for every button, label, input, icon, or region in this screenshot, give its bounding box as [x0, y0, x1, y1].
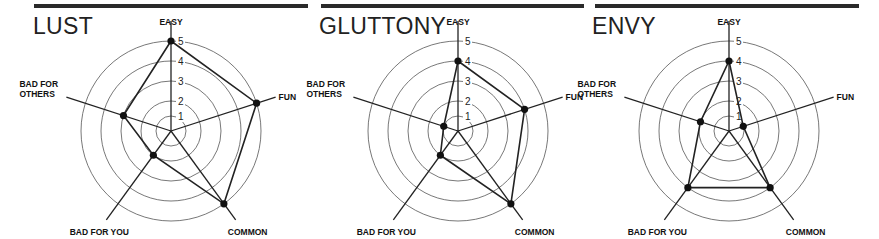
tick-label-2: 2 [178, 96, 184, 107]
radar-chart-envy: 12345EASYFUNBAD FOROTHERSBAD FOR YOUCOMM… [577, 17, 854, 237]
data-point-bad-for-you [150, 152, 157, 159]
radar-chart-gluttony: 12345EASYFUNBAD FOROTHERSBAD FOR YOUCOMM… [306, 17, 583, 237]
data-point-bad-for-others [697, 118, 704, 125]
axis-label-common: COMMON [515, 227, 555, 237]
axis-label-bad-for-others-line2: OTHERS [577, 89, 613, 99]
axis-bad-for-others [66, 97, 171, 131]
axis-common [729, 131, 794, 220]
axis-label-bad-for-you: BAD FOR YOU [357, 227, 416, 237]
data-point-fun [253, 100, 260, 107]
tick-label-1: 1 [465, 111, 471, 122]
tick-label-5: 5 [736, 36, 742, 47]
tick-label-5: 5 [465, 36, 471, 47]
data-point-fun [521, 106, 528, 113]
axis-bad-for-you [106, 131, 171, 220]
data-point-bad-for-you [684, 184, 691, 191]
axis-label-bad-for-others-line2: OTHERS [306, 89, 342, 99]
axis-label-bad-for-others-line1: BAD FOR [19, 79, 58, 89]
axis-label-bad-for-others-line1: BAD FOR [306, 79, 345, 89]
axis-label-bad-for-you: BAD FOR YOU [70, 227, 129, 237]
axis-label-common: COMMON [228, 227, 268, 237]
tick-label-4: 4 [465, 56, 471, 67]
tick-label-4: 4 [178, 56, 184, 67]
axis-label-fun: FUN [279, 92, 296, 102]
axis-label-bad-for-you: BAD FOR YOU [628, 227, 687, 237]
data-polygon [440, 61, 524, 204]
data-point-easy [454, 57, 461, 64]
radar-chart-lust: 12345EASYFUNBAD FOROTHERSBAD FOR YOUCOMM… [19, 17, 296, 237]
axis-label-common: COMMON [786, 227, 826, 237]
data-point-bad-for-others [440, 123, 447, 130]
data-point-bad-for-others [120, 112, 127, 119]
tick-label-3: 3 [736, 76, 742, 87]
tick-label-3: 3 [465, 76, 471, 87]
data-point-common [220, 200, 227, 207]
axis-label-bad-for-others-line2: OTHERS [19, 89, 55, 99]
axis-label-easy: EASY [159, 17, 182, 27]
data-point-easy [725, 57, 732, 64]
data-point-common [507, 200, 514, 207]
axis-label-fun: FUN [837, 92, 854, 102]
axis-fun [458, 97, 563, 131]
axis-label-easy: EASY [446, 17, 469, 27]
radar-charts-svg: 12345EASYFUNBAD FOROTHERSBAD FOR YOUCOMM… [0, 0, 879, 239]
tick-label-2: 2 [465, 96, 471, 107]
axis-bad-for-you [393, 131, 458, 220]
tick-label-3: 3 [178, 76, 184, 87]
data-point-fun [740, 123, 747, 130]
axis-label-easy: EASY [717, 17, 740, 27]
tick-label-4: 4 [736, 56, 742, 67]
data-point-common [767, 184, 774, 191]
tick-label-1: 1 [178, 111, 184, 122]
axis-bad-for-others [624, 97, 729, 131]
data-point-easy [167, 37, 174, 44]
axis-label-bad-for-others-line1: BAD FOR [577, 79, 616, 89]
tick-label-5: 5 [178, 36, 184, 47]
radar-chart-grid: LUST GLUTTONY ENVY 12345EASYFUNBAD FOROT… [0, 0, 879, 239]
data-point-bad-for-you [437, 152, 444, 159]
